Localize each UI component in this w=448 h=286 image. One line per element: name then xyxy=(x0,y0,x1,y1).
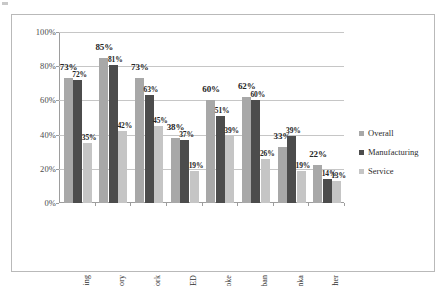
x-axis-label: Poke-Yoke xyxy=(224,275,233,286)
y-tick-mark xyxy=(56,32,59,33)
bar-overall xyxy=(242,97,251,203)
legend-label: Service xyxy=(368,166,394,176)
y-tick-mark xyxy=(56,135,59,136)
legend-label: Manufacturing xyxy=(368,147,419,157)
legend-item-overall[interactable]: Overall xyxy=(359,128,437,138)
x-axis-label: Other xyxy=(331,275,340,286)
bar-data-label: 13% xyxy=(331,171,346,180)
x-tick-mark xyxy=(344,203,345,206)
bar-group: 60%51%39% xyxy=(206,32,234,203)
bar-service xyxy=(118,131,127,203)
bar-service xyxy=(332,181,341,203)
bar-data-label: 72% xyxy=(72,70,87,79)
bar-data-label: 60% xyxy=(250,90,265,99)
bar-manufacturing xyxy=(180,140,189,203)
y-axis: 0%20%40%60%80%100% xyxy=(12,32,56,203)
bar-data-label: 60% xyxy=(202,84,220,94)
bar-overall xyxy=(64,78,73,203)
bar-group: 85%81%42% xyxy=(99,32,127,203)
bar-data-label: 35% xyxy=(82,133,97,142)
bar-data-label: 19% xyxy=(189,161,204,170)
chart-legend: OverallManufacturingService xyxy=(359,128,437,185)
bar-data-label: 42% xyxy=(117,121,132,130)
bar-data-label: 63% xyxy=(144,85,159,94)
bar-data-label: 51% xyxy=(215,106,230,115)
x-axis-label: Heijunka xyxy=(296,275,305,286)
bar-data-label: 81% xyxy=(108,55,123,64)
y-axis-tick-label: 60% xyxy=(16,95,56,105)
bar-data-label: 73% xyxy=(131,62,149,72)
y-tick-mark xyxy=(56,203,59,204)
legend-item-service[interactable]: Service xyxy=(359,166,437,176)
bar-group: 62%60%26% xyxy=(242,32,270,203)
y-axis-tick-label: 20% xyxy=(16,164,56,174)
bar-manufacturing xyxy=(287,136,296,203)
bar-service xyxy=(261,159,270,203)
bar-data-label: 85% xyxy=(95,42,113,52)
bar-data-label: 37% xyxy=(179,130,194,139)
bar-overall xyxy=(135,78,144,203)
x-axis-category-labels: Value Stream Mapping5S/Visual FactorySta… xyxy=(59,205,344,277)
y-axis-line xyxy=(59,32,60,203)
bar-group: 33%39%19% xyxy=(278,32,306,203)
bar-service xyxy=(297,171,306,203)
y-tick-mark xyxy=(56,100,59,101)
legend-swatch-icon xyxy=(359,150,364,155)
scan-artifact xyxy=(2,2,8,5)
bar-service xyxy=(83,143,92,203)
bar-service xyxy=(225,136,234,203)
x-axis-label: Kanban xyxy=(260,275,269,286)
bar-overall xyxy=(171,138,180,203)
bar-data-label: 26% xyxy=(260,149,275,158)
bar-data-label: 39% xyxy=(224,126,239,135)
y-axis-tick-label: 100% xyxy=(16,27,56,37)
x-axis-label: 5S/Visual Factory xyxy=(117,275,126,286)
bar-data-label: 45% xyxy=(153,116,168,125)
legend-label: Overall xyxy=(368,128,394,138)
x-axis-label: Standardized Work xyxy=(153,275,162,286)
bar-overall xyxy=(99,58,108,203)
bar-overall xyxy=(206,100,215,203)
bar-manufacturing xyxy=(323,179,332,203)
y-axis-tick-label: 40% xyxy=(16,130,56,140)
legend-swatch-icon xyxy=(359,131,364,136)
chart-frame: 0%20%40%60%80%100% 73%72%35%85%81%42%73%… xyxy=(11,14,435,272)
bar-group: 22%14%13% xyxy=(313,32,341,203)
x-axis-label: Value Stream Mapping xyxy=(82,275,91,286)
bar-service xyxy=(190,171,199,203)
bar-overall xyxy=(278,147,287,203)
x-axis-label: SMED xyxy=(189,275,198,286)
bar-data-label: 22% xyxy=(309,149,327,159)
bar-manufacturing xyxy=(109,65,118,204)
plot-area: 73%72%35%85%81%42%73%63%45%38%37%19%60%5… xyxy=(59,32,344,203)
bar-data-label: 19% xyxy=(296,161,311,170)
legend-item-manufacturing[interactable]: Manufacturing xyxy=(359,147,437,157)
bar-group: 38%37%19% xyxy=(171,32,199,203)
bar-group: 73%72%35% xyxy=(64,32,92,203)
bar-data-label: 39% xyxy=(286,126,301,135)
bar-service xyxy=(154,126,163,203)
bar-group: 73%63%45% xyxy=(135,32,163,203)
bar-manufacturing xyxy=(145,95,154,203)
y-tick-mark xyxy=(56,66,59,67)
y-axis-tick-label: 80% xyxy=(16,61,56,71)
y-axis-tick-label: 0% xyxy=(16,198,56,208)
y-tick-mark xyxy=(56,169,59,170)
legend-swatch-icon xyxy=(359,169,364,174)
